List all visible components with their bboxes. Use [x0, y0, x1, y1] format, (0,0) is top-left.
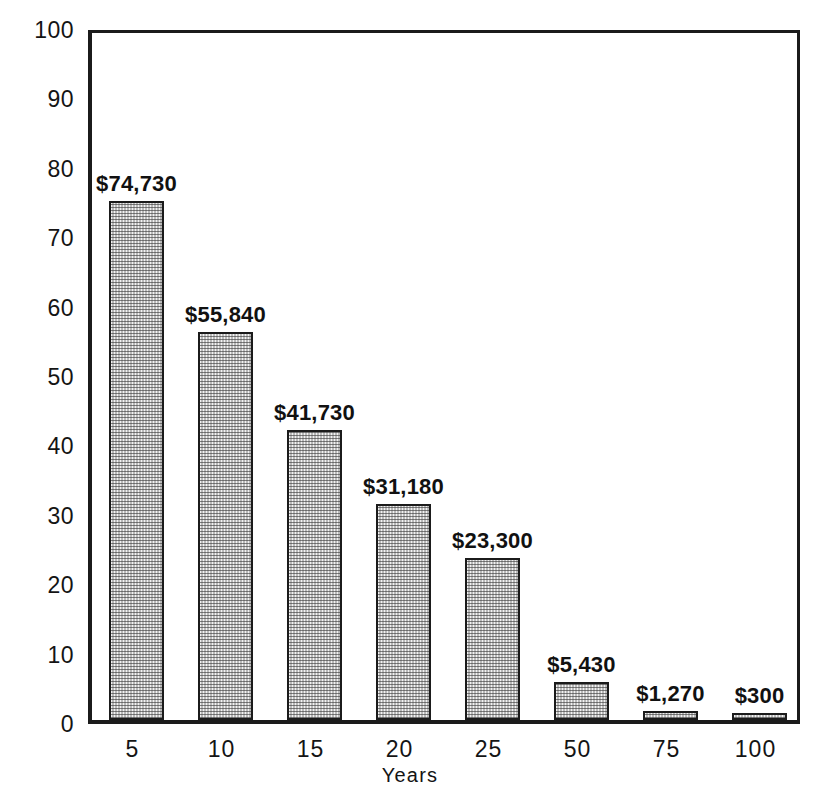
- bar-value-label: $31,180: [363, 474, 444, 500]
- x-axis-title: Years: [382, 764, 438, 787]
- bar-value-label: $41,730: [274, 400, 355, 426]
- bar: $31,180: [376, 504, 431, 720]
- bar: $5,430: [554, 682, 609, 720]
- x-axis-tick-label: 5: [126, 736, 140, 763]
- bar-value-label: $1,270: [636, 681, 705, 707]
- y-axis-tick-label: 40: [0, 433, 74, 460]
- y-axis-tick-label: 70: [0, 225, 74, 252]
- y-axis-tick-label: 30: [0, 502, 74, 529]
- y-axis-tick-label: 90: [0, 86, 74, 113]
- y-axis-tick-label: 60: [0, 294, 74, 321]
- y-axis-tick-label: 20: [0, 572, 74, 599]
- bar-value-label: $55,840: [185, 302, 266, 328]
- y-axis-tick-label: 0: [0, 711, 74, 738]
- bar: $23,300: [465, 558, 520, 720]
- x-axis-tick-label: 20: [386, 736, 414, 763]
- y-axis-tick-label: 10: [0, 641, 74, 668]
- bar-value-label: $300: [735, 683, 785, 709]
- bar: $74,730: [109, 201, 164, 720]
- plot-area: $74,730$55,840$41,730$31,180$23,300$5,43…: [88, 30, 800, 724]
- bar-value-label: $74,730: [96, 171, 177, 197]
- bar: $41,730: [287, 430, 342, 720]
- bar: $55,840: [198, 332, 253, 720]
- x-axis-tick-label: 50: [564, 736, 592, 763]
- y-axis-tick-label: 100: [0, 17, 74, 44]
- x-axis-tick-label: 10: [208, 736, 236, 763]
- bar: $300: [732, 713, 787, 720]
- bar-value-label: $5,430: [547, 652, 616, 678]
- y-axis-tick-label: 80: [0, 155, 74, 182]
- x-axis-tick-label: 75: [653, 736, 681, 763]
- bar-value-label: $23,300: [452, 528, 533, 554]
- bar: $1,270: [643, 711, 698, 720]
- x-axis-tick-label: 25: [475, 736, 503, 763]
- bar-chart: Thousands of Dollars 0102030405060708090…: [0, 0, 820, 790]
- x-axis-tick-label: 100: [735, 736, 776, 763]
- x-axis-tick-label: 15: [297, 736, 325, 763]
- y-axis-tick-label: 50: [0, 364, 74, 391]
